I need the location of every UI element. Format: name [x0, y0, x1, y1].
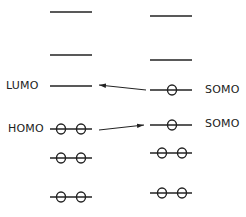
homo-label: HOMO	[8, 123, 44, 135]
arrow-somo-to-lumo	[99, 85, 146, 90]
somo-upper-label: SOMO	[205, 84, 240, 96]
somo-lower-label: SOMO	[205, 118, 240, 130]
arrow-homo-to-somo	[99, 125, 144, 130]
orbital-diagram	[0, 0, 246, 217]
lumo-label: LUMO	[6, 80, 39, 92]
